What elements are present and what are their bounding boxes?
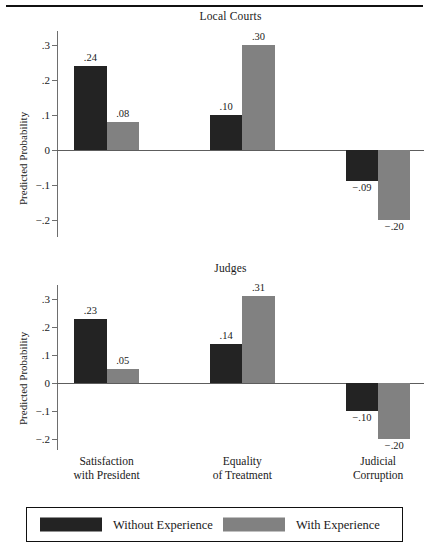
bar-value-label: .23 [84, 306, 97, 317]
y-axis-label-top: Predicted Probability [17, 112, 29, 205]
tick-mark [52, 299, 57, 300]
tick-label: −.2 [36, 214, 50, 225]
bar [242, 296, 274, 383]
y-axis-label-bottom: Predicted Probability [17, 332, 29, 425]
bar-value-label: .05 [116, 356, 129, 367]
bar [210, 115, 242, 150]
y-axis-line [57, 31, 58, 237]
tick-mark [52, 80, 57, 81]
bar-value-label: .10 [220, 102, 233, 113]
x-axis-category-label: Equalityof Treatment [213, 455, 272, 482]
legend-item-with-experience: With Experience [223, 517, 380, 532]
y-axis-line [57, 285, 58, 450]
bar-value-label: −.09 [352, 183, 371, 194]
plot-area-local-courts: .3.2.10−.1−.2.24.10−.09.08.30−.20 [57, 31, 424, 237]
top-divider-rule [6, 5, 423, 7]
panel-title-local-courts: Local Courts [0, 10, 429, 22]
category-label-line2: Corruption [353, 469, 403, 483]
category-label-line2: of Treatment [213, 469, 272, 483]
plot-area-judges: .3.2.10−.1−.2.23.14−.10.05.31−.20 [57, 285, 424, 450]
tick-mark [52, 150, 57, 151]
tick-label: .1 [42, 349, 50, 360]
bar [242, 45, 274, 150]
category-label-line1: Judicial [353, 455, 403, 469]
bar [74, 66, 106, 150]
tick-label: .2 [42, 74, 50, 85]
category-label-line2: with President [73, 469, 139, 483]
chart-legend: Without Experience With Experience [26, 507, 403, 542]
bar [74, 319, 106, 383]
legend-label-without-experience: Without Experience [113, 517, 213, 532]
bar [107, 369, 139, 383]
bar [378, 150, 410, 220]
bar [210, 344, 242, 383]
tick-mark [52, 439, 57, 440]
tick-label: .2 [42, 321, 50, 332]
tick-mark [52, 327, 57, 328]
tick-mark [52, 45, 57, 46]
x-axis-category-label: JudicialCorruption [353, 455, 403, 482]
legend-item-without-experience: Without Experience [40, 517, 213, 532]
legend-swatch-icon-gray [223, 518, 285, 532]
tick-mark [52, 411, 57, 412]
bar-value-label: .31 [252, 283, 265, 294]
bar-value-label: −.20 [385, 222, 404, 233]
bar-value-label: −.10 [352, 413, 371, 424]
bar [346, 150, 378, 181]
tick-mark [52, 355, 57, 356]
bar-value-label: .24 [84, 53, 97, 64]
bar-value-label: −.20 [385, 441, 404, 452]
tick-label: .1 [42, 109, 50, 120]
bar [346, 383, 378, 411]
tick-label: .3 [42, 39, 50, 50]
tick-label: −.2 [36, 433, 50, 444]
tick-mark [52, 115, 57, 116]
x-axis-category-label: Satisfactionwith President [73, 455, 139, 482]
tick-label: −.1 [36, 405, 50, 416]
bar [378, 383, 410, 439]
tick-label: −.1 [36, 179, 50, 190]
bar [107, 122, 139, 150]
category-label-line1: Satisfaction [73, 455, 139, 469]
bar-value-label: .08 [116, 109, 129, 120]
legend-label-with-experience: With Experience [296, 517, 380, 532]
panel-title-judges: Judges [0, 262, 429, 274]
bar-value-label: .30 [252, 32, 265, 43]
tick-mark [52, 383, 57, 384]
bar-value-label: .14 [220, 331, 233, 342]
tick-label: .3 [42, 293, 50, 304]
legend-swatch-icon-dark [40, 518, 102, 532]
tick-label: 0 [45, 377, 51, 388]
tick-mark [52, 185, 57, 186]
category-label-line1: Equality [213, 455, 272, 469]
tick-label: 0 [45, 144, 51, 155]
tick-mark [52, 220, 57, 221]
